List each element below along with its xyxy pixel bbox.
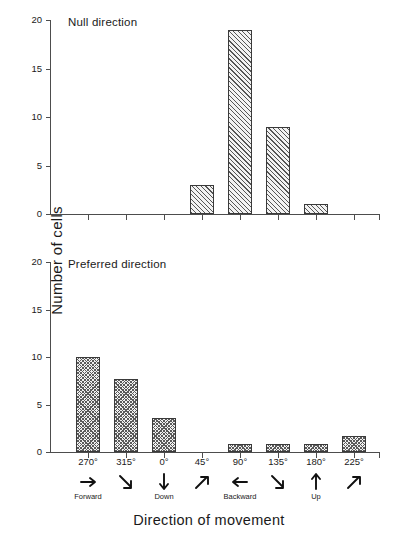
bar-null-direction-135deg <box>266 127 290 214</box>
bar-preferred-direction-180deg <box>304 444 328 452</box>
x-category-word-270deg: Forward <box>65 492 111 502</box>
x-category-word-label-backward: Backward <box>217 492 263 502</box>
y-tick-label-preferred-direction-20: 20 <box>20 256 42 267</box>
y-tick-preferred-direction-5 <box>46 405 50 406</box>
x-category-word-label-forward: Forward <box>65 492 111 502</box>
bar-preferred-direction-135deg <box>266 444 290 452</box>
bar-null-direction-45deg <box>190 185 214 214</box>
y-tick-label-null-direction-0: 0 <box>20 208 42 219</box>
bar-preferred-direction-0deg <box>152 418 176 452</box>
y-tick-label-null-direction-15: 15 <box>20 63 42 74</box>
y-tick-preferred-direction-0 <box>46 452 50 453</box>
y-tick-label-null-direction-5: 5 <box>20 160 42 171</box>
y-tick-null-direction-0 <box>46 214 50 215</box>
y-tick-label-preferred-direction-10: 10 <box>20 351 42 362</box>
y-tick-null-direction-5 <box>46 166 50 167</box>
x-category-word-label-up: Up <box>293 492 339 502</box>
y-tick-preferred-direction-20 <box>46 262 50 263</box>
arrow-up-right-icon <box>331 472 377 490</box>
y-tick-preferred-direction-15 <box>46 310 50 311</box>
x-tick-null-direction-6 <box>316 215 317 220</box>
x-category-arrow-wrap-225deg <box>331 472 377 490</box>
figure-bar-chart-direction-tuning: Number of cells Null direction Preferred… <box>0 0 418 537</box>
y-tick-null-direction-15 <box>46 69 50 70</box>
x-category-word-label-down: Down <box>141 492 187 502</box>
x-axis-end-tick-preferred-direction <box>379 453 380 458</box>
x-tick-null-direction-7 <box>354 215 355 220</box>
y-tick-label-preferred-direction-15: 15 <box>20 304 42 315</box>
y-tick-label-null-direction-20: 20 <box>20 14 42 25</box>
bar-null-direction-180deg <box>304 204 328 214</box>
bar-null-direction-90deg <box>228 30 252 214</box>
bar-preferred-direction-225deg <box>342 436 366 452</box>
x-tick-null-direction-2 <box>164 215 165 220</box>
y-axis-line-null-direction <box>50 20 51 215</box>
x-category-word-90deg: Backward <box>217 492 263 502</box>
x-axis-line-preferred-direction <box>50 452 380 453</box>
panel-title-null-direction: Null direction <box>68 16 137 28</box>
x-tick-null-direction-3 <box>202 215 203 220</box>
y-axis-line-preferred-direction <box>50 262 51 453</box>
x-category-word-180deg: Up <box>293 492 339 502</box>
bar-preferred-direction-315deg <box>114 379 138 452</box>
x-tick-null-direction-4 <box>240 215 241 220</box>
y-tick-label-preferred-direction-0: 0 <box>20 446 42 457</box>
y-tick-label-null-direction-10: 10 <box>20 111 42 122</box>
y-tick-preferred-direction-10 <box>46 357 50 358</box>
x-tick-label-225deg: 225° <box>331 456 377 468</box>
x-category-225deg: 225° <box>331 456 377 468</box>
bar-preferred-direction-90deg <box>228 444 252 452</box>
panel-title-preferred-direction: Preferred direction <box>68 258 166 270</box>
x-axis-line-null-direction <box>50 214 380 215</box>
y-tick-null-direction-10 <box>46 117 50 118</box>
x-tick-null-direction-5 <box>278 215 279 220</box>
x-tick-null-direction-0 <box>88 215 89 220</box>
y-tick-label-preferred-direction-5: 5 <box>20 399 42 410</box>
x-axis-title: Direction of movement <box>0 512 418 528</box>
x-category-word-0deg: Down <box>141 492 187 502</box>
x-tick-null-direction-1 <box>126 215 127 220</box>
x-axis-end-tick-null-direction <box>379 215 380 220</box>
bar-preferred-direction-270deg <box>76 357 100 452</box>
y-tick-null-direction-20 <box>46 20 50 21</box>
